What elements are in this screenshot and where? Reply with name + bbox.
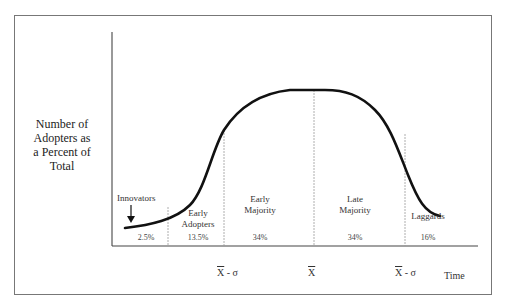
tick-suffix: - σ xyxy=(224,267,238,278)
label-line: Majority xyxy=(333,205,377,216)
segment-label-late-majority: Late Majority xyxy=(333,194,377,216)
percent-early-majority: 34% xyxy=(240,233,280,242)
segment-label-laggards: Laggards xyxy=(408,211,448,222)
x-bar-symbol: X xyxy=(308,267,315,278)
segment-label-early-adopters: Early Adopters xyxy=(178,208,218,230)
percent-innovators: 2.5% xyxy=(128,233,164,242)
y-label-line: Adopters as xyxy=(22,131,102,145)
label-line: Adopters xyxy=(178,219,218,230)
segment-label-early-majority: Early Majority xyxy=(238,194,282,216)
y-label-line: Number of xyxy=(22,117,102,131)
x-tick-mean-plus-sigma: X - σ xyxy=(395,267,416,278)
y-label-line: a Percent of xyxy=(22,145,102,159)
label-line: Early xyxy=(178,208,218,219)
percent-late-majority: 34% xyxy=(335,233,375,242)
percent-laggards: 16% xyxy=(410,233,446,242)
x-tick-mean-minus-sigma: X - σ xyxy=(217,267,238,278)
label-line: Late xyxy=(333,194,377,205)
segment-label-innovators: Innovators xyxy=(117,193,156,203)
tick-suffix: - σ xyxy=(402,267,416,278)
label-line: Majority xyxy=(238,205,282,216)
adoption-bell-curve xyxy=(125,90,440,228)
arrowhead-icon xyxy=(127,216,135,223)
x-tick-mean: X xyxy=(308,267,315,278)
x-axis-label: Time xyxy=(444,270,465,281)
label-line: Early xyxy=(238,194,282,205)
y-label-line: Total xyxy=(22,159,102,173)
y-axis-label: Number of Adopters as a Percent of Total xyxy=(22,117,102,173)
percent-early-adopters: 13.5% xyxy=(178,233,218,242)
